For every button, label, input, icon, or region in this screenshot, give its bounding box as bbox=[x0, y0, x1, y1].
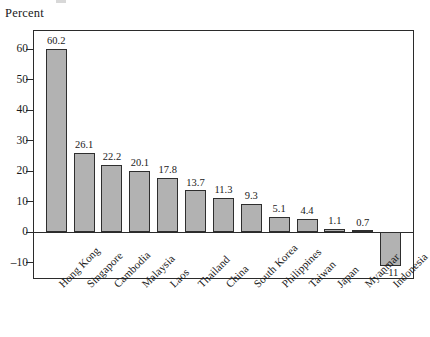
bar[interactable] bbox=[324, 229, 345, 232]
y-axis-tick bbox=[26, 79, 34, 80]
bar[interactable] bbox=[157, 178, 178, 232]
bar-value-label: 0.7 bbox=[344, 218, 381, 229]
bar[interactable] bbox=[352, 230, 373, 232]
y-axis-tick bbox=[26, 171, 34, 172]
bar[interactable] bbox=[269, 217, 290, 233]
y-axis-title: Percent bbox=[5, 6, 44, 21]
bar[interactable] bbox=[129, 171, 150, 232]
bar-value-label: 4.4 bbox=[289, 206, 326, 217]
bar[interactable] bbox=[46, 49, 67, 233]
bar-value-label: 26.1 bbox=[66, 140, 103, 151]
bar[interactable] bbox=[185, 190, 206, 232]
bar[interactable] bbox=[241, 204, 262, 232]
y-axis-tick bbox=[26, 49, 34, 50]
y-axis-tick-label: –10 bbox=[2, 257, 28, 269]
plot-area: 60.226.122.220.117.813.711.39.35.14.41.1… bbox=[34, 31, 413, 278]
y-axis-tick-label: 60 bbox=[2, 43, 28, 55]
scan-artifact bbox=[56, 0, 66, 3]
y-axis-tick bbox=[26, 232, 34, 233]
bar[interactable] bbox=[101, 165, 122, 233]
y-axis-labels: 6050403020100–10 bbox=[0, 31, 28, 278]
y-axis-tick bbox=[26, 110, 34, 111]
y-axis-tick-label: 40 bbox=[2, 104, 28, 116]
y-axis-tick-label: 0 bbox=[2, 226, 28, 238]
y-axis-tick bbox=[26, 140, 34, 141]
bar[interactable] bbox=[213, 198, 234, 232]
y-axis-tick-label: 50 bbox=[2, 74, 28, 86]
bar[interactable] bbox=[74, 153, 95, 233]
y-axis-tick-label: 10 bbox=[2, 196, 28, 208]
y-axis-tick bbox=[26, 201, 34, 202]
x-axis-labels: Hong KongSingaporeCambodiaMalaysiaLaosTh… bbox=[34, 280, 413, 337]
bar[interactable] bbox=[297, 219, 318, 232]
y-axis-tick-label: 20 bbox=[2, 165, 28, 177]
bar-value-label: 17.8 bbox=[149, 165, 186, 176]
y-axis-tick-label: 30 bbox=[2, 135, 28, 147]
y-axis-tick bbox=[26, 262, 34, 263]
bar-value-label: 60.2 bbox=[38, 36, 75, 47]
bar-value-label: 9.3 bbox=[233, 191, 270, 202]
